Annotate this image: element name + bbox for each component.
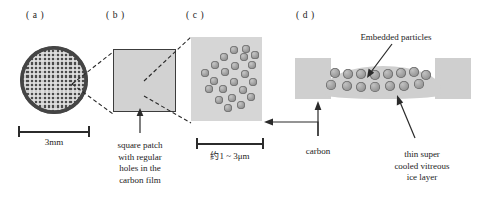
scalebar-grid-line	[19, 131, 89, 133]
caption-ice-layer: thin super cooled vitreous ice layer	[368, 149, 476, 184]
arrow-ice-layer-line	[400, 102, 415, 138]
caption-square-patch: square patch with regular holes in the c…	[100, 140, 180, 186]
arrow-embedded-particles-line	[371, 44, 392, 72]
arrow-carbon-left-head	[264, 119, 273, 126]
arrow-square-patch-head	[137, 108, 144, 116]
connector-a-to-b-lower	[72, 84, 113, 114]
connector-b-to-c-upper	[144, 37, 191, 81]
scalebar-grid-label: 3mm	[18, 137, 90, 147]
caption-embedded-particles: Embedded particles	[334, 32, 458, 44]
arrow-carbon-left-line	[272, 122, 318, 136]
scalebar-grid: 3mm	[18, 126, 90, 152]
scalebar-particles: 约1 ~ 3μm	[196, 138, 264, 164]
connector-b-to-c-lower	[144, 96, 191, 123]
scalebar-particles-line	[197, 143, 263, 145]
arrow-carbon-up-head	[315, 101, 322, 110]
arrow-ice-layer-head	[397, 95, 403, 105]
scalebar-particles-label: 约1 ~ 3μm	[196, 149, 264, 162]
figure-canvas: ( a ) ( b ) ( c ) ( d )	[0, 0, 482, 197]
caption-carbon: carbon	[294, 146, 342, 158]
connector-a-to-b-upper	[72, 52, 113, 84]
